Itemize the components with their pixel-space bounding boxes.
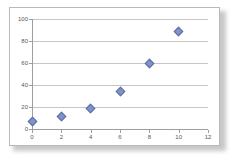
x-tick-2 (61, 130, 62, 133)
data-point[interactable] (86, 103, 96, 113)
y-tick-20 (29, 107, 32, 108)
x-tick-label: 6 (118, 134, 121, 140)
plot-area: 020406080100 024681012 (32, 19, 208, 129)
data-point[interactable] (56, 112, 66, 122)
gridline-y-20 (32, 107, 208, 108)
data-point[interactable] (27, 116, 37, 126)
x-tick-10 (179, 130, 180, 133)
x-tick-12 (208, 130, 209, 133)
x-tick-label: 8 (148, 134, 151, 140)
x-tick-label: 0 (30, 134, 33, 140)
x-tick-label: 2 (60, 134, 63, 140)
scatter-chart-widget: 020406080100 024681012 (0, 0, 235, 160)
gridline-y-80 (32, 41, 208, 42)
y-tick-60 (29, 63, 32, 64)
chart-frame: 020406080100 024681012 (9, 7, 220, 146)
x-tick-label: 10 (175, 134, 182, 140)
data-point[interactable] (115, 87, 125, 97)
x-tick-6 (120, 130, 121, 133)
y-tick-label: 100 (18, 16, 28, 22)
y-tick-label: 60 (21, 60, 28, 66)
y-tick-label: 0 (25, 126, 28, 132)
gridline-y-100 (32, 19, 208, 20)
y-tick-label: 20 (21, 104, 28, 110)
x-tick-label: 12 (205, 134, 212, 140)
x-tick-0 (32, 130, 33, 133)
x-tick-label: 4 (89, 134, 92, 140)
gridline-y-60 (32, 63, 208, 64)
y-tick-100 (29, 19, 32, 20)
data-point[interactable] (144, 58, 154, 68)
data-point[interactable] (174, 26, 184, 36)
x-tick-8 (149, 130, 150, 133)
y-axis-line (32, 19, 33, 130)
y-tick-label: 40 (21, 82, 28, 88)
y-tick-80 (29, 41, 32, 42)
y-tick-label: 80 (21, 38, 28, 44)
y-tick-40 (29, 85, 32, 86)
x-tick-4 (91, 130, 92, 133)
